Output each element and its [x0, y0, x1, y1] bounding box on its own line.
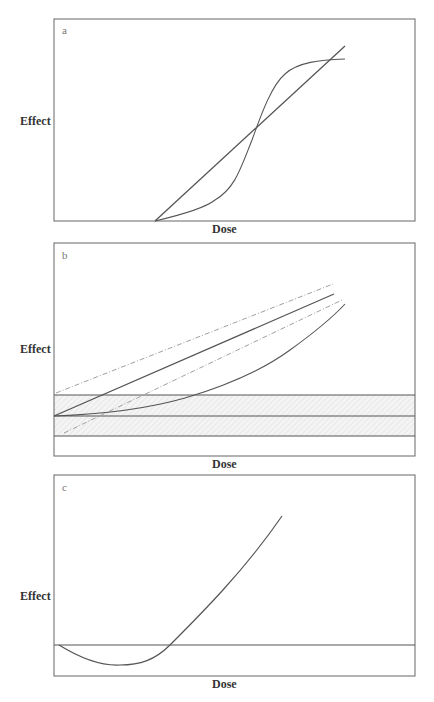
panel-a-x-label: Dose [212, 222, 237, 237]
panel-c-y-label: Effect [20, 589, 51, 604]
panel-b-x-label: Dose [212, 457, 237, 472]
panel-a-sigmoid-curve [155, 59, 345, 221]
panel-b-lower-dashed-line [64, 300, 342, 433]
panel-b-upper-dashed-line [56, 284, 333, 393]
panel-b-variability-band [54, 395, 415, 436]
panel-b-letter: b [62, 249, 68, 261]
panel-b-y-label: Effect [20, 342, 51, 357]
panel-a-linear-line [155, 46, 345, 221]
panel-b-frame [54, 243, 415, 456]
panel-c-letter: c [62, 481, 67, 493]
panel-a-y-label: Effect [20, 114, 51, 129]
panel-c-frame [54, 475, 415, 676]
panel-a-frame [54, 19, 415, 221]
panel-c-x-label: Dose [212, 677, 237, 692]
panel-b-curve [54, 304, 345, 416]
panel-c-hormetic-curve [59, 516, 282, 665]
panel-b-linear-line [54, 294, 334, 416]
panel-a-letter: a [62, 24, 67, 36]
panel-a: a Effect Dose [0, 0, 434, 238]
